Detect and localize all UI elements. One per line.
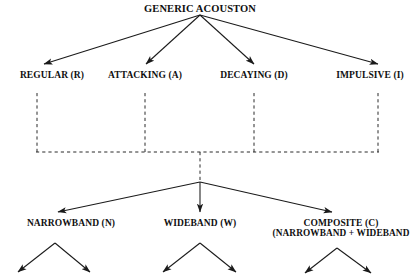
node-generic-acouston: GENERIC ACOUSTON bbox=[144, 3, 256, 14]
arrow-narrowband-right bbox=[55, 243, 90, 272]
node-impulsive: IMPULSIVE (I) bbox=[336, 70, 404, 80]
arrow-wideband-left bbox=[163, 243, 200, 272]
acouston-taxonomy-diagram: GENERIC ACOUSTON REGULAR (R) ATTACKING (… bbox=[0, 0, 417, 279]
node-composite-subtitle: (NARROWBAND + WIDEBAND bbox=[273, 228, 410, 238]
arrow-wideband-right bbox=[200, 243, 236, 272]
node-composite: COMPOSITE (C) (NARROWBAND + WIDEBAND bbox=[273, 218, 410, 238]
leaf-arrows bbox=[18, 243, 371, 273]
node-regular: REGULAR (R) bbox=[20, 70, 84, 80]
arrow-narrowband-left bbox=[18, 243, 55, 272]
arrow-root-to-regular bbox=[44, 15, 200, 64]
node-wideband: WIDEBAND (W) bbox=[164, 218, 237, 228]
node-narrowband: NARROWBAND (N) bbox=[27, 218, 115, 228]
arrow-junction-to-narrowband bbox=[58, 182, 200, 212]
junction-to-classes-arrows bbox=[58, 182, 332, 212]
arrow-root-to-attacking bbox=[146, 15, 200, 64]
arrow-composite-right bbox=[337, 248, 371, 273]
node-attacking: ATTACKING (A) bbox=[108, 70, 182, 80]
node-decaying: DECAYING (D) bbox=[220, 70, 288, 80]
arrow-junction-to-composite bbox=[200, 182, 332, 212]
arrow-composite-left bbox=[305, 248, 337, 273]
root-to-types-arrows bbox=[44, 15, 378, 64]
node-composite-title: COMPOSITE (C) bbox=[304, 218, 379, 228]
dashed-bus bbox=[36, 93, 379, 182]
